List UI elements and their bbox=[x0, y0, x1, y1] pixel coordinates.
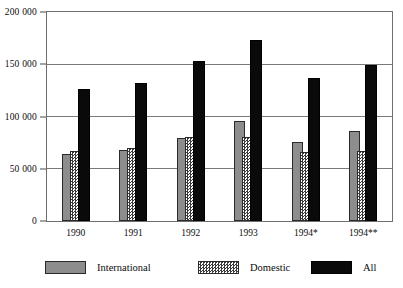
bars-layer bbox=[47, 12, 392, 221]
x-tick-label-1994starstar: 1994** bbox=[349, 228, 378, 238]
y-tick-mark-50000 bbox=[40, 168, 46, 169]
legend-item-domestic: Domestic bbox=[198, 258, 290, 276]
bar-all-1993 bbox=[250, 40, 262, 221]
legend-item-international: International bbox=[45, 258, 151, 276]
y-tick-mark-0 bbox=[40, 221, 46, 222]
y-tick-label-150000: 150 000 bbox=[5, 59, 37, 69]
bar-group-1990 bbox=[62, 12, 90, 221]
bar-group-1993 bbox=[234, 12, 262, 221]
legend-label-domestic: Domestic bbox=[250, 262, 290, 273]
legend-label-all: All bbox=[363, 262, 376, 273]
bar-all-1991 bbox=[135, 83, 147, 221]
y-tick-label-50000: 50 000 bbox=[10, 164, 37, 174]
x-axis: 19901991199219931994*1994** bbox=[47, 228, 392, 244]
bar-all-1994star bbox=[308, 78, 320, 221]
bar-all-1994starstar bbox=[365, 65, 377, 221]
chart-legend: International Domestic All bbox=[0, 258, 403, 282]
y-tick-label-0: 0 bbox=[32, 216, 37, 226]
x-tick-label-1990: 1990 bbox=[66, 228, 85, 238]
bar-group-1991 bbox=[119, 12, 147, 221]
y-tick-label-100000: 100 000 bbox=[5, 112, 37, 122]
bar-group-1994starstar bbox=[349, 12, 377, 221]
bar-group-1992 bbox=[177, 12, 205, 221]
x-tick-label-1994star: 1994* bbox=[294, 228, 318, 238]
legend-swatch-international bbox=[45, 261, 86, 274]
x-tick-label-1993: 1993 bbox=[239, 228, 258, 238]
bar-all-1990 bbox=[78, 89, 90, 221]
legend-item-all: All bbox=[311, 258, 376, 276]
x-tick-label-1991: 1991 bbox=[124, 228, 143, 238]
legend-swatch-all bbox=[311, 261, 352, 274]
bar-all-1992 bbox=[193, 61, 205, 221]
y-axis: 050 000100 000150 000200 000 bbox=[0, 0, 46, 288]
legend-swatch-domestic bbox=[198, 261, 239, 274]
bar-group-1994star bbox=[292, 12, 320, 221]
y-tick-mark-200000 bbox=[40, 12, 46, 13]
y-tick-mark-150000 bbox=[40, 64, 46, 65]
legend-label-international: International bbox=[97, 262, 151, 273]
bar-chart: 050 000100 000150 000200 000 19901991199… bbox=[0, 0, 403, 288]
y-tick-label-200000: 200 000 bbox=[5, 7, 37, 17]
x-tick-label-1992: 1992 bbox=[181, 228, 200, 238]
y-tick-mark-100000 bbox=[40, 116, 46, 117]
